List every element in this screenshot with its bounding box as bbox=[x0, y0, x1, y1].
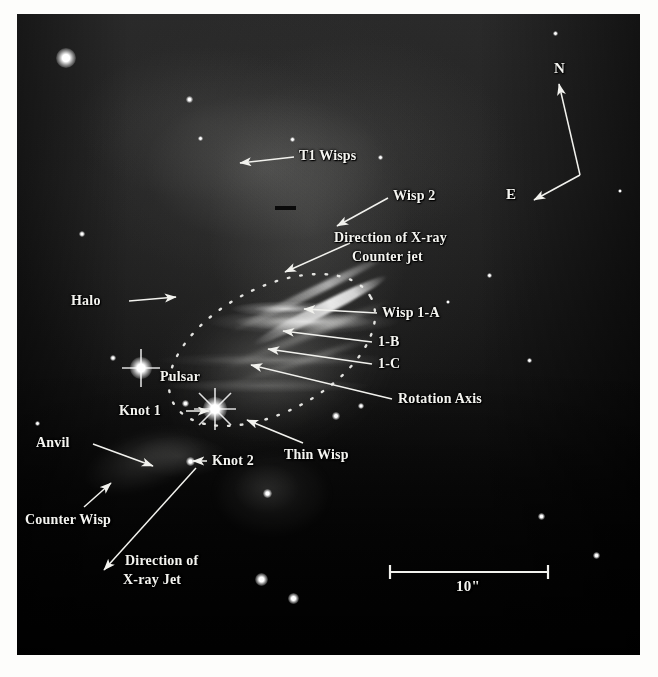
label-counter-jet-line2: Counter jet bbox=[352, 249, 423, 266]
label-wisp-1b: 1-B bbox=[378, 334, 400, 351]
label-knot-2: Knot 2 bbox=[212, 453, 254, 470]
label-counter-jet-line1: Direction of X-ray bbox=[334, 230, 447, 247]
label-knot-1: Knot 1 bbox=[119, 403, 161, 420]
label-compass-east: E bbox=[506, 186, 516, 204]
label-thin-wisp: Thin Wisp bbox=[284, 447, 349, 464]
label-scale-bar: 10" bbox=[456, 578, 480, 596]
label-t1-wisps: T1 Wisps bbox=[299, 148, 357, 165]
label-compass-north: N bbox=[554, 60, 565, 78]
label-rotation-axis: Rotation Axis bbox=[398, 391, 482, 408]
label-wisp-1a: Wisp 1-A bbox=[382, 305, 440, 322]
image-plate bbox=[17, 14, 640, 655]
label-pulsar: Pulsar bbox=[160, 369, 200, 386]
label-anvil: Anvil bbox=[36, 435, 70, 452]
label-wisp-2: Wisp 2 bbox=[393, 188, 436, 205]
label-wisp-1c: 1-C bbox=[378, 356, 400, 373]
label-halo: Halo bbox=[71, 293, 101, 310]
astronomical-figure: T1 Wisps Wisp 2 Direction of X-ray Count… bbox=[0, 0, 658, 677]
label-counter-wisp: Counter Wisp bbox=[25, 512, 111, 529]
label-x-ray-jet-line2: X-ray Jet bbox=[123, 572, 181, 589]
label-x-ray-jet-line1: Direction of bbox=[125, 553, 198, 570]
